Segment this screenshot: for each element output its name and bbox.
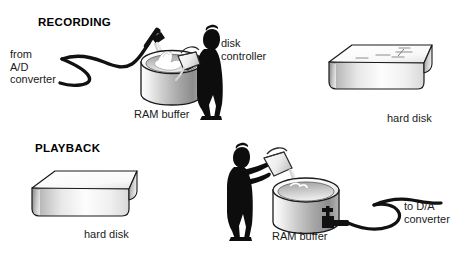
diagram-figure: RECORDING PLAYBACK from A/D converter RA… <box>0 0 460 255</box>
label-recording-hard-disk: hard disk <box>387 112 432 125</box>
playback-hard-disk-box-icon <box>32 171 137 216</box>
recording-section-heading: RECORDING <box>38 16 111 28</box>
label-from-ad-converter: from A/D converter <box>10 48 56 86</box>
label-disk-controller: disk controller <box>221 37 266 62</box>
label-to-da-converter: to D/A converter <box>404 200 450 225</box>
label-playback-hard-disk: hard disk <box>84 228 129 241</box>
label-playback-ram-buffer: RAM buffer <box>272 230 327 243</box>
recording-hard-disk-box-icon <box>329 45 432 89</box>
label-recording-ram-buffer: RAM buffer <box>134 108 189 121</box>
recording-hose-icon <box>60 43 149 85</box>
playback-section-heading: PLAYBACK <box>35 142 100 154</box>
